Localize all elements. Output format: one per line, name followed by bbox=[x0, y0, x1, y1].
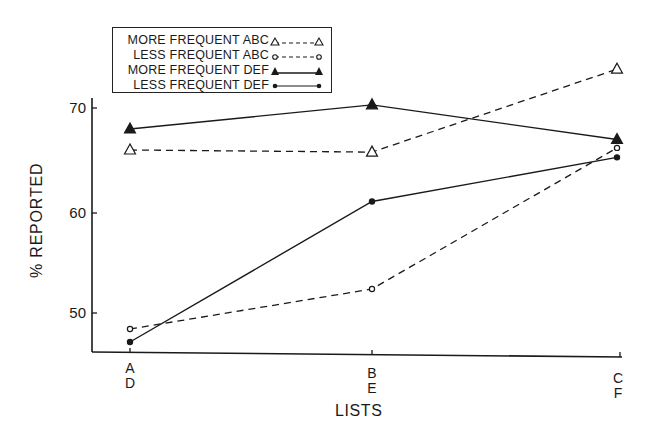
open-triangle-dashed-icon bbox=[269, 35, 325, 47]
data-point-marker bbox=[127, 326, 132, 331]
series-layer bbox=[125, 63, 623, 344]
data-point-marker bbox=[614, 145, 619, 150]
y-tick-label-60: 60 bbox=[56, 204, 86, 221]
legend-item-less-frequent-abc: LESS FREQUENT ABC bbox=[113, 48, 331, 63]
open-circle-dashed-icon bbox=[269, 50, 325, 62]
legend-label: LESS FREQUENT ABC bbox=[133, 48, 269, 62]
x-tick-top: C bbox=[610, 371, 626, 386]
x-axis-line bbox=[92, 352, 622, 357]
data-point-marker bbox=[127, 339, 132, 344]
x-tick-bottom: E bbox=[364, 381, 380, 396]
x-tick-label-b-e: B E bbox=[364, 366, 380, 396]
x-tick-bottom: F bbox=[610, 386, 626, 401]
filled-circle-solid-icon bbox=[269, 80, 325, 92]
x-tick-label-a-d: A D bbox=[122, 361, 138, 391]
data-point-marker bbox=[367, 99, 378, 109]
series-line-less-frequent-def bbox=[130, 157, 617, 342]
data-point-marker bbox=[614, 155, 619, 160]
legend-label: MORE FREQUENT DEF bbox=[128, 63, 269, 77]
x-axis-title: LISTS bbox=[335, 402, 382, 420]
legend: MORE FREQUENT ABC LESS FREQUENT ABC MORE… bbox=[112, 27, 332, 93]
data-point-marker bbox=[369, 286, 374, 291]
x-tick-label-c-f: C F bbox=[610, 371, 626, 401]
legend-item-less-frequent-def: LESS FREQUENT DEF bbox=[113, 78, 331, 93]
y-axis-title: % REPORTED bbox=[28, 163, 46, 278]
x-tick-bottom: D bbox=[122, 376, 138, 391]
y-tick-label-50: 50 bbox=[56, 304, 86, 321]
data-point-marker bbox=[369, 199, 374, 204]
series-line-more-frequent-def bbox=[130, 105, 617, 140]
y-tick-label-70: 70 bbox=[56, 99, 86, 116]
data-point-marker bbox=[125, 144, 136, 154]
x-tick-top: A bbox=[122, 361, 138, 376]
series-line-less-frequent-abc bbox=[130, 148, 617, 329]
legend-item-more-frequent-abc: MORE FREQUENT ABC bbox=[113, 33, 331, 48]
x-tick-top: B bbox=[364, 366, 380, 381]
data-point-marker bbox=[612, 63, 623, 73]
filled-triangle-solid-icon bbox=[269, 65, 325, 77]
legend-label: LESS FREQUENT DEF bbox=[133, 78, 269, 92]
legend-label: MORE FREQUENT ABC bbox=[128, 33, 269, 47]
legend-item-more-frequent-def: MORE FREQUENT DEF bbox=[113, 63, 331, 78]
